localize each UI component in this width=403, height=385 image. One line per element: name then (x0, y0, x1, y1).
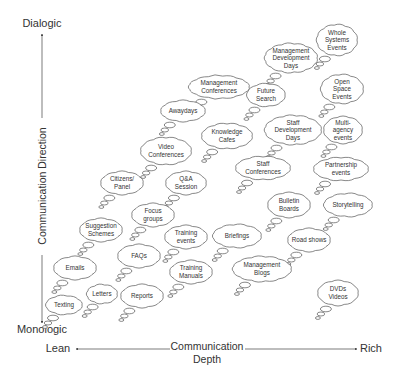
cloud-label: Manuals (179, 272, 203, 279)
cloud-label: events (177, 237, 196, 244)
cloud-label: Conferences (245, 168, 281, 175)
cloud-tail-bubble (321, 155, 326, 158)
cloud-suggestion-schemes: SuggestionSchemes (78, 218, 122, 256)
cloud-tail-bubble (323, 228, 328, 231)
cloud-tail-bubble (119, 319, 124, 322)
cloud-citizens-panel: Citizens/Panel (99, 171, 143, 209)
cloud-tail-bubble (57, 280, 68, 286)
cloud-label: Emails (66, 264, 85, 271)
cloud-label: Schemes (88, 230, 114, 237)
cloud-tail-bubble (249, 107, 260, 113)
cloud-tail-bubble (84, 310, 92, 314)
cloud-tail-bubble (121, 314, 129, 318)
cloud-knowledge-cafes: KnowledgeCafes (202, 123, 253, 162)
cloud-tail-bubble (54, 286, 62, 290)
cloud-tail-bubble (202, 160, 207, 163)
cloud-label: Video (158, 143, 174, 150)
cloud-management-development-days: ManagementDevelopmentDays (264, 43, 317, 86)
cloud-tail-bubble (288, 258, 296, 262)
cloud-tail-bubble (323, 150, 331, 154)
cloud-label: Briefings (225, 232, 250, 240)
cloud-label: Boards (279, 205, 299, 212)
cloud-reports: Reports (119, 284, 163, 322)
cloud-tail-bubble (82, 315, 87, 318)
cloud-tail-bubble (291, 252, 302, 258)
cloud-tail-bubble (203, 155, 211, 159)
cloud-tail-bubble (237, 191, 242, 194)
cloud-label: DVDs (330, 285, 346, 292)
cloud-label: Search (256, 95, 276, 102)
cloud-tail-bubble (124, 308, 135, 314)
cloud-tail-bubble (207, 149, 218, 155)
cloud-label: Bulletin (279, 197, 300, 204)
cloud-tail-bubble (165, 201, 173, 205)
cloud-tail-bubble (78, 253, 83, 256)
cloud-management-blogs: ManagementBlogs (232, 256, 291, 295)
cloud-label: Multi- (335, 119, 350, 126)
x-axis-title-line2: Depth (193, 353, 221, 365)
cloud-label: Whole (328, 29, 346, 36)
cloud-label: Storytelling (332, 201, 364, 209)
cloud-tail-bubble (165, 255, 173, 259)
cloud-label: events (332, 169, 351, 176)
cloud-tail-bubble (326, 144, 337, 150)
cloud-tail-bubble (316, 62, 324, 66)
cloud-future-search: FutureSearch (244, 83, 285, 120)
cloud-tail-bubble (239, 282, 250, 288)
cloud-label: Focus (144, 207, 161, 214)
cloud-tail-bubble (268, 151, 276, 155)
cloud-tail-bubble (317, 312, 325, 316)
cloud-tail-bubble (315, 317, 320, 320)
cloud-tail-bubble (52, 291, 57, 294)
cloud-tail-bubble (48, 315, 59, 321)
y-axis-title: Communication Direction (36, 127, 48, 244)
cloud-tail-bubble (242, 180, 253, 186)
cloud-training-events: Trainingevents (163, 225, 207, 263)
cloud-tail-bubble (319, 115, 324, 118)
cloud-tail-bubble (328, 217, 339, 223)
cloud-storytelling: Storytelling (323, 193, 372, 230)
x-axis-right-label: Rich (360, 342, 382, 354)
cloud-tail-bubble (267, 79, 275, 83)
cloud-partnership-events: Partnershipevents (314, 157, 369, 194)
cloud-dvds-videos: DVDsVideos (315, 280, 358, 319)
cloud-tail-bubble (321, 110, 329, 114)
cloud-tail-bubble (135, 227, 146, 233)
cloud-staff-development-days: StaffDevelopmentDays (264, 115, 321, 158)
cloud-tail-bubble (270, 73, 281, 79)
cloud-tail-bubble (324, 104, 335, 110)
cloud-label: Conferences (148, 151, 184, 158)
cloud-tail-bubble (319, 56, 330, 62)
cloud-tail-bubble (212, 259, 217, 262)
cloud-awaydays: Awaydays (159, 100, 205, 136)
cloud-label: Events (332, 93, 351, 100)
cloud-tail-bubble (87, 304, 98, 310)
cloud-label: Texting (54, 301, 74, 309)
cloud-tail-bubble (164, 122, 175, 128)
cloud-label: Awaydays (169, 107, 198, 115)
cloud-tail-bubble (268, 224, 276, 228)
cloud-tail-bubble (246, 113, 254, 117)
cloud-label: events (334, 134, 353, 141)
cloud-label: Letters (92, 290, 111, 297)
cloud-label: Road shows (292, 236, 327, 243)
cloud-tail-bubble (83, 242, 94, 248)
cloud-tail-bubble (173, 284, 184, 290)
cloud-faqs: FAQs (116, 244, 160, 282)
cloud-tail-bubble (316, 187, 324, 191)
cloud-label: Staff (287, 119, 300, 126)
cloud-tail-bubble (132, 233, 140, 237)
cloud-bulletin-boards: BulletinBoards (266, 192, 310, 231)
cloud-label: Events (327, 44, 346, 51)
y-axis-top-label: Dialogic (22, 17, 62, 29)
cloud-label: Panel (114, 183, 130, 190)
cloud-label: Days (284, 62, 298, 70)
cloud-road-shows: Road shows (286, 228, 330, 266)
cloud-layer: WholeSystemsEventsManagementDevelopmentD… (43, 24, 373, 328)
cloud-label: Reports (131, 292, 153, 300)
cloud-tail-bubble (163, 260, 168, 263)
cloud-tail-bubble (170, 290, 178, 294)
cloud-tail-bubble (266, 229, 271, 232)
cloud-label: Citizens/ (110, 175, 134, 182)
cloud-staff-conferences: StaffConferences (236, 156, 291, 193)
